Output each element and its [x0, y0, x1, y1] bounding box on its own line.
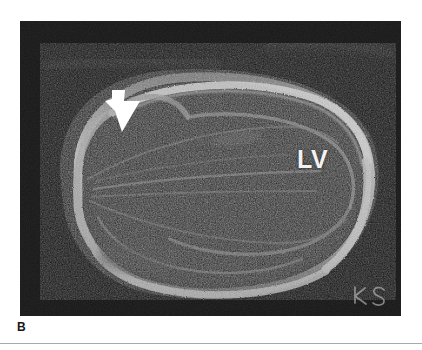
panel-letter-label: B [17, 321, 26, 333]
micrograph-image: LV [20, 21, 401, 316]
footer-divider [0, 343, 422, 344]
arrow-glyph-path [105, 90, 140, 132]
lateral-ventricle-label: LV [297, 147, 328, 172]
micrograph-canvas [20, 21, 401, 316]
arrow-down-right-icon [102, 87, 146, 135]
ks-handwritten-signature [350, 283, 392, 309]
figure-panel: LV B [0, 0, 422, 350]
film-grain-overlay [20, 21, 401, 316]
